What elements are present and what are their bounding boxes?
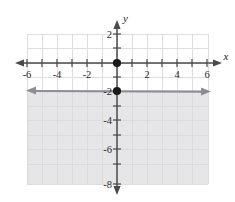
y-tick-label-neg2: -2 xyxy=(103,86,112,97)
x-axis-name-label: x xyxy=(223,50,229,62)
y-tick-label-2: 2 xyxy=(107,29,112,40)
x-tick-label-neg2: -2 xyxy=(83,69,92,80)
x-tick-label-neg6: -6 xyxy=(23,69,32,80)
x-axis-right-arrow xyxy=(213,59,222,66)
y-tick-label-neg6: -6 xyxy=(103,144,112,155)
y-tick-label-neg4: -4 xyxy=(103,115,112,126)
plotted-point-y-intercept xyxy=(113,87,121,95)
coordinate-graph-figure: y x -6 -4 -2 2 4 6 2 -2 -4 -6 -8 xyxy=(0,0,235,202)
coordinate-plane-svg: y x -6 -4 -2 2 4 6 2 -2 -4 -6 -8 xyxy=(0,0,235,202)
x-tick-label-2: 2 xyxy=(144,69,149,80)
x-tick-label-4: 4 xyxy=(174,69,180,80)
y-tick-label-neg8: -8 xyxy=(103,179,112,190)
y-axis-bottom-arrow xyxy=(113,186,120,195)
x-tick-label-6: 6 xyxy=(204,69,209,80)
y-axis-name-label: y xyxy=(122,12,128,24)
plotted-point-origin xyxy=(113,59,121,67)
x-axis-left-arrow xyxy=(15,59,24,66)
x-tick-label-neg4: -4 xyxy=(53,69,62,80)
y-axis-top-arrow xyxy=(113,20,120,29)
